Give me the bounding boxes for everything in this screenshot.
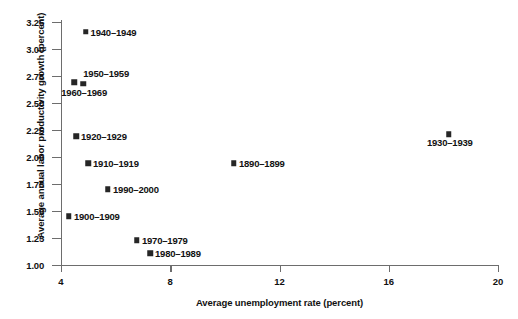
y-tick-mark: [52, 238, 61, 239]
data-point-marker: [80, 81, 86, 87]
y-tick-mark: [52, 157, 61, 158]
y-tick-mark: [52, 211, 61, 212]
y-tick-mark: [52, 49, 61, 50]
data-point-marker: [105, 187, 111, 193]
x-tick-label: 20: [478, 276, 518, 287]
data-point-marker: [85, 161, 91, 167]
data-point-label: 1910–1919: [93, 158, 139, 169]
data-point-label: 1920–1929: [81, 131, 127, 142]
y-tick-mark: [52, 22, 61, 23]
x-tick-label: 8: [150, 276, 190, 287]
data-point-marker: [134, 237, 140, 243]
x-tick-mark: [61, 265, 62, 272]
data-point-label: 1890–1899: [239, 158, 285, 169]
y-tick-mark: [52, 184, 61, 185]
data-point-label: 1990–2000: [113, 184, 159, 195]
y-tick-label: 1.75: [8, 179, 44, 190]
data-point-marker: [83, 29, 89, 35]
x-tick-label: 4: [41, 276, 81, 287]
data-point-marker: [66, 214, 72, 220]
y-axis-line: [61, 20, 62, 266]
y-tick-label: 2.50: [8, 98, 44, 109]
y-tick-mark: [52, 130, 61, 131]
x-tick-mark: [280, 265, 281, 272]
y-tick-mark: [52, 265, 61, 266]
y-tick-label: 1.00: [8, 260, 44, 271]
y-tick-mark: [52, 76, 61, 77]
x-tick-mark: [389, 265, 390, 272]
x-tick-label: 16: [369, 276, 409, 287]
y-tick-label: 1.50: [8, 206, 44, 217]
scatter-chart: Average annual labor productivity growth…: [0, 0, 518, 319]
y-tick-label: 2.25: [8, 125, 44, 136]
data-point-label: 1970–1979: [142, 235, 188, 246]
data-point-label: 1950–1959: [83, 68, 129, 79]
y-tick-label: 3.25: [8, 17, 44, 28]
data-point-label: 1960–1969: [61, 87, 107, 98]
x-axis-title: Average unemployment rate (percent): [61, 297, 498, 308]
data-point-label: 1930–1939: [427, 137, 473, 148]
data-point-marker: [446, 132, 452, 138]
y-tick-label: 2.00: [8, 152, 44, 163]
data-point-label: 1900–1909: [74, 211, 120, 222]
y-tick-label: 1.25: [8, 233, 44, 244]
x-tick-mark: [498, 265, 499, 272]
data-point-marker: [73, 134, 79, 140]
y-tick-label: 2.75: [8, 71, 44, 82]
y-tick-mark: [52, 103, 61, 104]
data-point-marker: [71, 80, 77, 86]
data-point-label: 1980–1989: [155, 248, 201, 259]
data-point-label: 1940–1949: [91, 26, 137, 37]
y-tick-label: 3.00: [8, 44, 44, 55]
data-point-marker: [147, 250, 153, 256]
x-tick-label: 12: [260, 276, 300, 287]
data-point-marker: [231, 161, 237, 167]
x-tick-mark: [170, 265, 171, 272]
